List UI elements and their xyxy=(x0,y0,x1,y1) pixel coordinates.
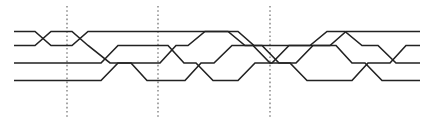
braid-diagram-canvas xyxy=(0,0,431,124)
strand-group xyxy=(14,32,420,81)
strand-2 xyxy=(14,32,420,81)
braid-diagram-figure xyxy=(0,0,431,124)
section-divider-group xyxy=(67,6,270,118)
